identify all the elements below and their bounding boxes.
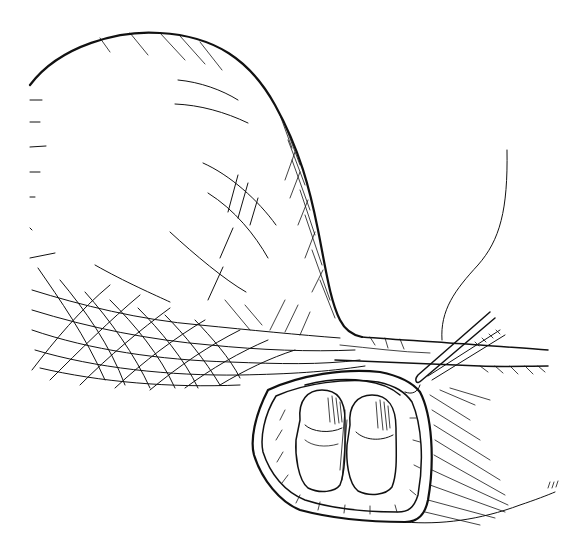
neck-of-sac [335,337,548,374]
suture-thread [442,150,507,340]
distended-sac [30,33,365,390]
left-rounded-structure [296,390,345,492]
illustration-canvas [0,0,574,553]
right-rounded-structure [340,395,396,494]
incised-opening [253,371,558,525]
